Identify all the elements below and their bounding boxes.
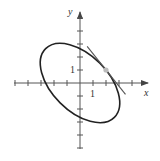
tangent-point (103, 67, 108, 72)
ellipse-tangent-diagram: y x 1 1 (0, 0, 160, 161)
x-tick-label-1: 1 (90, 88, 95, 99)
y-tick-label-1: 1 (70, 64, 75, 75)
y-axis-label: y (67, 6, 73, 17)
x-axis-label: x (143, 87, 149, 98)
